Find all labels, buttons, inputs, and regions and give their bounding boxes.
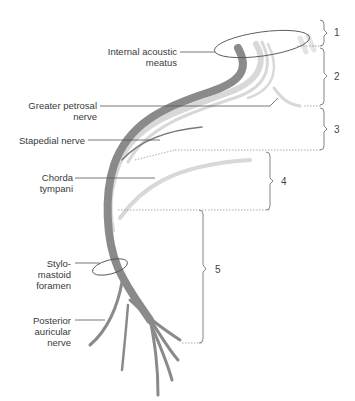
segment-braces: [199, 20, 327, 343]
segment-number-1: 1: [334, 27, 340, 38]
segment-number-4: 4: [281, 176, 287, 187]
segment-number-2: 2: [334, 71, 340, 82]
segment-number-3: 3: [334, 124, 340, 135]
label-stapedial-nerve: Stapedial nerve: [19, 135, 85, 146]
label-greater-petrosal-nerve: Greater petrosal nerve: [28, 100, 97, 122]
label-internal-acoustic-meatus: Internal acoustic meatus: [108, 46, 177, 68]
label-posterior-auricular-nerve: Posterior auricular nerve: [33, 315, 71, 348]
label-stylomastoid-foramen: Stylo- mastoid foramen: [36, 258, 71, 291]
label-chorda-tympani: Chorda tympani: [40, 172, 73, 194]
segment-number-5: 5: [215, 264, 221, 275]
